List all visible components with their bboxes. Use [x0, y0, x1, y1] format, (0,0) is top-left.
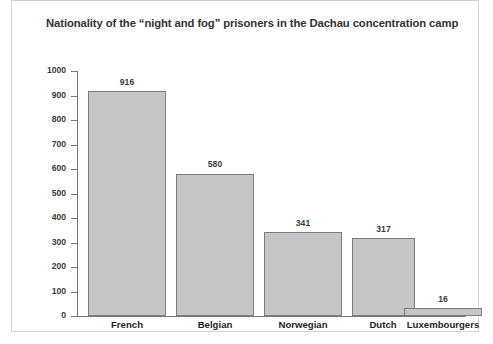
- y-axis-label-400: 400: [26, 213, 66, 223]
- chart-figure: Nationality of the “night and fog” priso…: [0, 0, 493, 344]
- bar-value-belgian: 580: [176, 160, 254, 169]
- plot-area: 1000 900 800 700 600 500 400 300: [0, 0, 493, 344]
- bar-french[interactable]: [88, 91, 166, 316]
- y-axis-label-300: 300: [26, 238, 66, 248]
- x-axis-line: [77, 316, 466, 317]
- category-label-belgian: Belgian: [170, 320, 260, 330]
- y-axis-label-700: 700: [26, 140, 66, 150]
- y-axis-label-1000: 1000: [26, 66, 66, 76]
- y-axis-tick: [71, 120, 77, 121]
- bar-value-dutch: 317: [352, 225, 415, 234]
- bar-value-norwegian: 341: [264, 219, 342, 228]
- bar-belgian[interactable]: [176, 174, 254, 316]
- y-axis-tick: [71, 243, 77, 244]
- y-axis-label-200: 200: [26, 262, 66, 272]
- category-label-norwegian: Norwegian: [258, 320, 348, 330]
- y-axis-line: [77, 71, 78, 317]
- y-axis-label-800: 800: [26, 115, 66, 125]
- y-axis-tick: [71, 292, 77, 293]
- y-axis-label-500: 500: [26, 189, 66, 199]
- category-label-luxembourgers: Luxembourgers: [398, 320, 488, 330]
- y-axis-label-0: 0: [26, 311, 66, 321]
- bar-luxembourgers[interactable]: [404, 308, 482, 316]
- y-axis-tick: [71, 316, 77, 317]
- y-axis-tick: [71, 145, 77, 146]
- category-label-french: French: [82, 320, 172, 330]
- y-axis-tick: [71, 169, 77, 170]
- y-axis-tick: [71, 267, 77, 268]
- bar-value-french: 916: [88, 78, 166, 87]
- y-axis-tick: [71, 218, 77, 219]
- y-axis-label-100: 100: [26, 287, 66, 297]
- y-axis-tick: [71, 71, 77, 72]
- bar-value-luxembourgers: 16: [404, 295, 482, 304]
- bar-dutch[interactable]: [352, 238, 415, 316]
- y-axis-tick: [71, 194, 77, 195]
- bar-norwegian[interactable]: [264, 232, 342, 316]
- y-axis-label-600: 600: [26, 164, 66, 174]
- y-axis-label-900: 900: [26, 91, 66, 101]
- y-axis-tick: [71, 96, 77, 97]
